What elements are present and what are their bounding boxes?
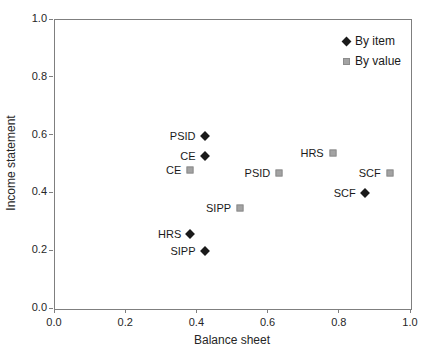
diamond-data-marker	[200, 246, 210, 256]
x-axis-tick	[54, 309, 55, 313]
y-axis-tick	[49, 192, 53, 193]
y-axis-tick-label: 0.2	[17, 243, 47, 255]
plot-area: By item By value PSIDCEHRSSIPPSCFCESIPPP…	[54, 19, 412, 310]
data-point-label: SCF	[359, 167, 381, 179]
square-data-marker	[237, 204, 244, 211]
data-point-label: CE	[166, 164, 181, 176]
y-axis-tick-label: 0.0	[17, 301, 47, 313]
data-point-label: CE	[180, 150, 195, 162]
legend-label-by-value: By value	[355, 54, 401, 68]
diamond-data-marker	[185, 229, 195, 239]
square-marker-icon	[343, 58, 350, 65]
square-data-marker	[386, 170, 393, 177]
x-axis-tick-label: 0.4	[189, 316, 204, 328]
square-data-marker	[276, 170, 283, 177]
y-axis-tick-label: 1.0	[17, 12, 47, 24]
x-axis-tick	[125, 309, 126, 313]
y-axis-tick	[49, 134, 53, 135]
data-point-label: SIPP	[170, 245, 195, 257]
x-axis-tick	[410, 309, 411, 313]
diamond-marker-icon	[342, 36, 352, 46]
x-axis-tick	[196, 309, 197, 313]
scatter-chart: Income statement Balance sheet By item B…	[0, 0, 429, 359]
diamond-data-marker	[200, 151, 210, 161]
legend-entry-by-item: By item	[343, 31, 401, 51]
data-point-label: HRS	[300, 147, 323, 159]
diamond-data-marker	[200, 131, 210, 141]
legend-label-by-item: By item	[355, 34, 395, 48]
y-axis-tick	[49, 19, 53, 20]
x-axis-tick-label: 1.0	[402, 316, 417, 328]
y-axis-tick-label: 0.4	[17, 185, 47, 197]
legend-entry-by-value: By value	[343, 51, 401, 71]
data-point-label: SIPP	[206, 202, 231, 214]
square-data-marker	[329, 149, 336, 156]
y-axis-tick-label: 0.8	[17, 70, 47, 82]
data-point-label: PSID	[245, 167, 271, 179]
square-data-marker	[187, 167, 194, 174]
data-point-label: HRS	[158, 228, 181, 240]
x-axis-tick-label: 0.2	[118, 316, 133, 328]
x-axis-tick-label: 0.8	[331, 316, 346, 328]
x-axis-title: Balance sheet	[194, 333, 270, 347]
y-axis-tick	[49, 250, 53, 251]
y-axis-tick	[49, 308, 53, 309]
x-axis-tick-label: 0.6	[260, 316, 275, 328]
data-point-label: PSID	[170, 130, 196, 142]
x-axis-tick	[338, 309, 339, 313]
x-axis-tick	[267, 309, 268, 313]
y-axis-tick	[49, 76, 53, 77]
y-axis-title: Income statement	[4, 115, 18, 210]
y-axis-tick-label: 0.6	[17, 128, 47, 140]
x-axis-tick-label: 0.0	[46, 316, 61, 328]
data-point-label: SCF	[334, 187, 356, 199]
legend: By item By value	[343, 31, 401, 71]
diamond-data-marker	[360, 188, 370, 198]
